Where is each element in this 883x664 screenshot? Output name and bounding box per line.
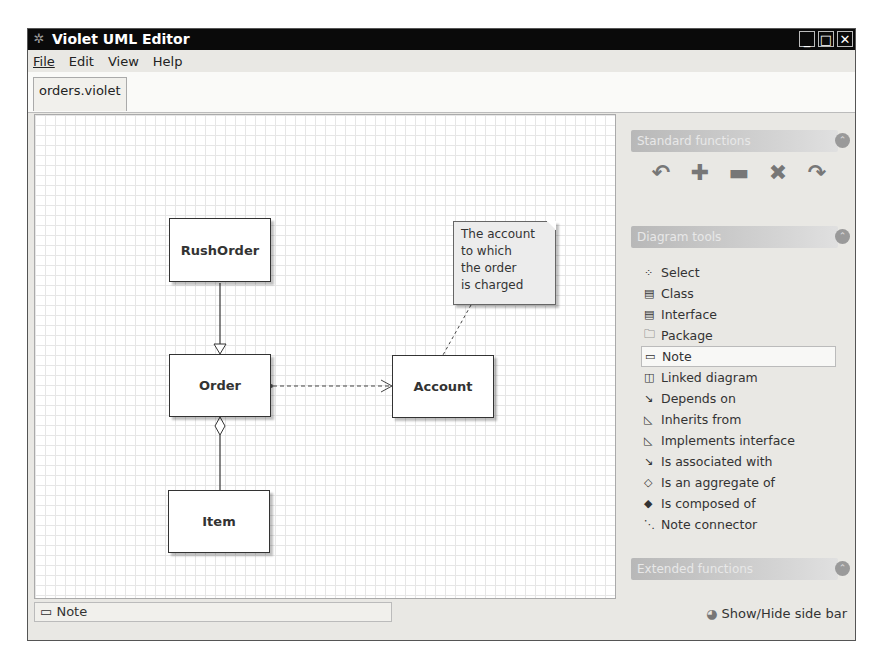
expand-icon[interactable]: ⌃ xyxy=(835,561,850,576)
tool-is-an-aggregate-of[interactable]: ◇Is an aggregate of xyxy=(641,472,836,493)
current-tool-label: Note xyxy=(56,604,87,619)
side-bar: Standard functions ⌃ ↶ ✚ ▬ ✖ ↷ Diagram t… xyxy=(628,114,850,599)
tool-linked-diagram[interactable]: ◫Linked diagram xyxy=(641,367,836,388)
tool-depends-on[interactable]: ↘Depends on xyxy=(641,388,836,409)
tool-interface[interactable]: ▤Interface xyxy=(641,304,836,325)
connectors xyxy=(35,115,616,599)
tool-label: Class xyxy=(661,286,694,301)
tool-label: Package xyxy=(661,328,713,343)
app-window: ✲ Violet UML Editor _ □ ✕ File Edit View… xyxy=(27,28,856,641)
tool-package[interactable]: 🗀Package xyxy=(641,325,836,346)
tool-label: Note connector xyxy=(661,517,757,532)
title-bar[interactable]: ✲ Violet UML Editor _ □ ✕ xyxy=(28,29,855,50)
extended-functions-header[interactable]: Extended functions ⌃ xyxy=(631,558,838,580)
standard-functions-title: Standard functions xyxy=(637,134,751,148)
class-item[interactable]: Item xyxy=(168,490,270,553)
diagram-tools-header[interactable]: Diagram tools ⌃ xyxy=(631,226,838,248)
tool-implements-interface[interactable]: ◺Implements interface xyxy=(641,430,836,451)
show-hide-label: Show/Hide side bar xyxy=(721,606,847,621)
menu-file[interactable]: File xyxy=(33,54,55,69)
tool-note[interactable]: ▭Note xyxy=(641,346,836,367)
package-icon: 🗀 xyxy=(644,326,661,345)
note-line: to which xyxy=(461,243,548,260)
select-icon: ⁘ xyxy=(644,266,661,279)
note-icon: ▭ xyxy=(645,350,662,363)
association-icon: ↘ xyxy=(644,455,661,468)
show-hide-sidebar-button[interactable]: ◕ Show/Hide side bar xyxy=(706,606,847,621)
tab-bar: orders.violet xyxy=(28,72,855,113)
standard-toolbar: ↶ ✚ ▬ ✖ ↷ xyxy=(650,162,828,184)
tool-note-connector[interactable]: ⋱Note connector xyxy=(641,514,836,535)
tab-orders-violet[interactable]: orders.violet xyxy=(33,77,127,111)
collapse-icon[interactable]: ⌃ xyxy=(835,229,850,244)
maximize-button[interactable]: □ xyxy=(818,31,834,47)
standard-functions-header[interactable]: Standard functions ⌃ xyxy=(631,130,838,152)
aggregation-icon: ◇ xyxy=(644,476,661,489)
tool-label: Is an aggregate of xyxy=(661,475,775,490)
tool-class[interactable]: ▤Class xyxy=(641,283,836,304)
menu-help[interactable]: Help xyxy=(153,54,183,69)
tool-is-associated-with[interactable]: ↘Is associated with xyxy=(641,451,836,472)
menu-bar: File Edit View Help xyxy=(28,50,855,72)
class-rushorder[interactable]: RushOrder xyxy=(169,218,271,282)
extended-functions-title: Extended functions xyxy=(637,562,753,576)
tool-label: Inherits from xyxy=(661,412,741,427)
dependency-icon: ↘ xyxy=(644,392,661,405)
note-account[interactable]: The account to which the order is charge… xyxy=(453,221,556,305)
close-button[interactable]: ✕ xyxy=(837,31,853,47)
status-bar: ▭ Note xyxy=(34,602,392,622)
menu-edit[interactable]: Edit xyxy=(69,54,94,69)
class-icon: ▤ xyxy=(644,287,661,300)
note-fold-corner xyxy=(547,221,556,230)
undo-icon[interactable]: ↶ xyxy=(650,162,672,184)
class-account[interactable]: Account xyxy=(392,355,494,418)
class-order[interactable]: Order xyxy=(169,354,271,417)
composition-icon: ◆ xyxy=(644,497,661,510)
note-connector-icon: ⋱ xyxy=(644,518,661,531)
diagram-canvas[interactable]: RushOrder Order Account Item The account… xyxy=(34,114,616,599)
diagram-tools-list: ⁘Select ▤Class ▤Interface 🗀Package ▭Note… xyxy=(641,262,836,535)
redo-icon[interactable]: ↷ xyxy=(806,162,828,184)
tool-label: Linked diagram xyxy=(661,370,758,385)
diagram-tools-title: Diagram tools xyxy=(637,230,721,244)
window-title: Violet UML Editor xyxy=(52,30,190,49)
app-icon: ✲ xyxy=(32,32,46,46)
note-line: the order xyxy=(461,260,548,277)
note-icon: ▭ xyxy=(40,604,52,619)
tool-label: Is composed of xyxy=(661,496,756,511)
tool-label: Note xyxy=(662,349,692,364)
tool-label: Depends on xyxy=(661,391,736,406)
tool-inherits-from[interactable]: ◺Inherits from xyxy=(641,409,836,430)
zoom-out-icon[interactable]: ▬ xyxy=(728,162,750,184)
globe-icon: ◕ xyxy=(706,606,717,621)
linked-diagram-icon: ◫ xyxy=(644,371,661,384)
tool-label: Is associated with xyxy=(661,454,773,469)
collapse-icon[interactable]: ⌃ xyxy=(835,133,850,148)
zoom-in-icon[interactable]: ✚ xyxy=(689,162,711,184)
tool-label: Interface xyxy=(661,307,717,322)
note-line: is charged xyxy=(461,277,548,294)
interface-icon: ▤ xyxy=(644,308,661,321)
tool-select[interactable]: ⁘Select xyxy=(641,262,836,283)
minimize-button[interactable]: _ xyxy=(799,31,815,47)
inheritance-icon: ◺ xyxy=(644,413,661,426)
tool-label: Implements interface xyxy=(661,433,795,448)
tool-is-composed-of[interactable]: ◆Is composed of xyxy=(641,493,836,514)
menu-view[interactable]: View xyxy=(108,54,139,69)
note-line: The account xyxy=(461,226,548,243)
delete-icon[interactable]: ✖ xyxy=(767,162,789,184)
realization-icon: ◺ xyxy=(644,434,661,447)
tool-label: Select xyxy=(661,265,700,280)
